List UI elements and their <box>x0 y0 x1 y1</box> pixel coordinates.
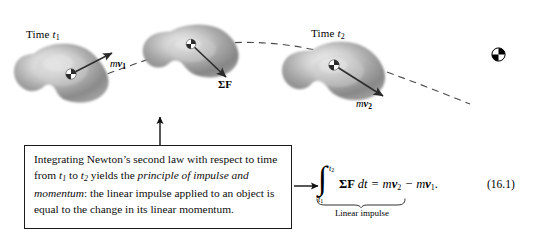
body-stage-3 <box>282 42 385 100</box>
center-of-mass-icon-stage-2 <box>186 39 196 49</box>
center-of-mass-icon-stage-1 <box>66 69 76 79</box>
equation-equals: = <box>372 177 379 191</box>
equation-period: . <box>435 177 438 191</box>
center-of-mass-icon <box>491 47 506 62</box>
momentum-label-stage-1-mass: m <box>110 58 118 69</box>
callout-box: Integrating Newton’s second law with res… <box>24 145 292 229</box>
equation-differential: dt <box>358 177 368 191</box>
time-label-stage-1: Time t1 <box>26 28 60 42</box>
linear-impulse-label: Linear impulse <box>316 208 408 218</box>
equation-rhs-mass-2: m <box>416 177 425 191</box>
equation-rhs-mass-1: m <box>383 177 392 191</box>
callout-line-2-b: to <box>66 169 81 181</box>
callout-text: Integrating Newton’s second law with res… <box>34 152 282 217</box>
momentum-label-stage-2: mv2 <box>356 98 372 111</box>
time-label-stage-3: Time t2 <box>311 27 345 41</box>
callout-line-3-b: : the linear impulse <box>84 187 172 199</box>
equation-number: (16.1) <box>487 178 515 190</box>
callout-line-2-c: yields the <box>88 169 138 181</box>
time-label-stage-3-subscript: 2 <box>341 32 345 41</box>
body-stage-1 <box>14 44 108 102</box>
callout-line-5: linear momentum. <box>150 203 234 215</box>
equation-sigma-f: ΣF <box>339 177 355 191</box>
time-label-stage-1-subscript: 1 <box>56 33 60 42</box>
sum-force-label: ΣF <box>218 78 232 90</box>
body-stage-2 <box>143 25 238 77</box>
linear-impulse-brace <box>316 198 406 208</box>
integral-upper-limit: t2 <box>329 164 334 173</box>
integral-sign: ∫ <box>318 162 327 195</box>
time-label-stage-1-prefix: Time <box>26 28 53 40</box>
center-of-mass-icon-stage-3 <box>329 60 339 70</box>
callout-line-2-italic: principle of <box>138 169 191 181</box>
callout-line-1: Integrating Newton’s second law with res… <box>34 153 242 165</box>
equation-body: ΣFdt=mv2−mv1. <box>339 177 438 195</box>
equation-rhs-sub-1: 2 <box>397 183 401 192</box>
momentum-label-stage-2-mass: m <box>356 98 364 109</box>
equation-minus: − <box>405 177 412 191</box>
momentum-label-stage-2-subscript: 2 <box>368 102 372 111</box>
time-label-stage-3-prefix: Time <box>311 27 338 39</box>
equation-area: ∫ t2 t1 ΣFdt=mv2−mv1. Linear impulse <box>316 158 496 224</box>
momentum-label-stage-1: mv1 <box>110 58 126 71</box>
impulse-momentum-figure: Time t1 mv1 ΣF Time t2 mv2 Integrating N… <box>0 0 541 249</box>
momentum-label-stage-1-subscript: 1 <box>122 62 126 71</box>
